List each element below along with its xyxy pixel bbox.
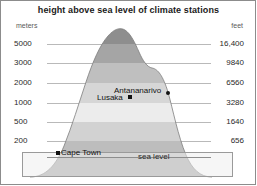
right-tick-6560: 6560 (226, 79, 244, 87)
station-dot-antananarivo (166, 91, 170, 95)
right-tick-656: 656 (231, 137, 244, 145)
band-2000-3000 (0, 63, 257, 83)
band-3000-5000 (0, 44, 257, 63)
left-tick-2000: 2000 (14, 79, 32, 87)
sea-level-label: sea level (138, 152, 170, 161)
right-tick-9840: 9840 (226, 59, 244, 67)
left-tick-200: 200 (14, 137, 27, 145)
right-tick-1640: 1640 (226, 118, 244, 126)
sea-level-box (22, 152, 233, 177)
left-tick-5000: 5000 (14, 40, 32, 48)
station-label-lusaka: Lusaka (97, 93, 123, 102)
climate-station-elevation-diagram: height above sea level of climate statio… (0, 0, 257, 186)
band-above-5000 (0, 0, 257, 44)
band-500-1000 (0, 103, 257, 122)
right-tick-3280: 3280 (226, 99, 244, 107)
sea-level-line (47, 157, 211, 158)
station-dot-cape-town (56, 151, 60, 155)
left-tick-3000: 3000 (14, 59, 32, 67)
station-label-cape-town: Cape Town (61, 148, 101, 157)
left-tick-1000: 1000 (14, 99, 32, 107)
station-dot-lusaka (128, 95, 132, 99)
right-tick-16400: 16,400 (220, 40, 244, 48)
band-200-500 (0, 122, 257, 141)
left-tick-500: 500 (14, 118, 27, 126)
